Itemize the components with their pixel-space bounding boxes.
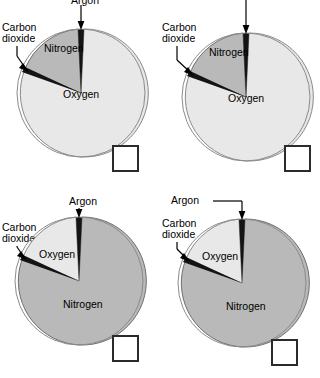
answer-checkbox-top-left[interactable] bbox=[112, 145, 139, 172]
answer-checkbox-bottom-right[interactable] bbox=[271, 339, 298, 366]
chart-panel-top-right: Argon Carbon dioxide Nitrogen Oxygen bbox=[160, 0, 320, 189]
pie-inner-label-oxygen-bottom-left: Oxygen bbox=[39, 249, 75, 261]
pie-inner-label-nitrogen-bottom-left: Nitrogen bbox=[63, 299, 103, 311]
pie-inner-label-nitrogen-top-left: Nitrogen bbox=[44, 43, 84, 55]
pie-inner-label-oxygen-top-left: Oxygen bbox=[63, 89, 99, 101]
chart-panel-bottom-right: Argon Carbon dioxide Oxygen Nitrogen bbox=[160, 189, 320, 378]
chart-panel-top-left: Argon Carbon dioxide Nitrogen Oxygen bbox=[0, 0, 160, 189]
pie-inner-label-oxygen-top-right: Oxygen bbox=[228, 93, 264, 105]
chart-panel-bottom-left: Argon Carbon dioxide Oxygen Nitrogen bbox=[0, 189, 160, 378]
pie-inner-label-nitrogen-top-right: Nitrogen bbox=[209, 47, 249, 59]
pie-inner-label-nitrogen-bottom-right: Nitrogen bbox=[226, 301, 266, 313]
answer-checkbox-bottom-left[interactable] bbox=[112, 335, 139, 362]
answer-checkbox-top-right[interactable] bbox=[284, 145, 311, 172]
pie-inner-label-oxygen-bottom-right: Oxygen bbox=[202, 251, 238, 263]
